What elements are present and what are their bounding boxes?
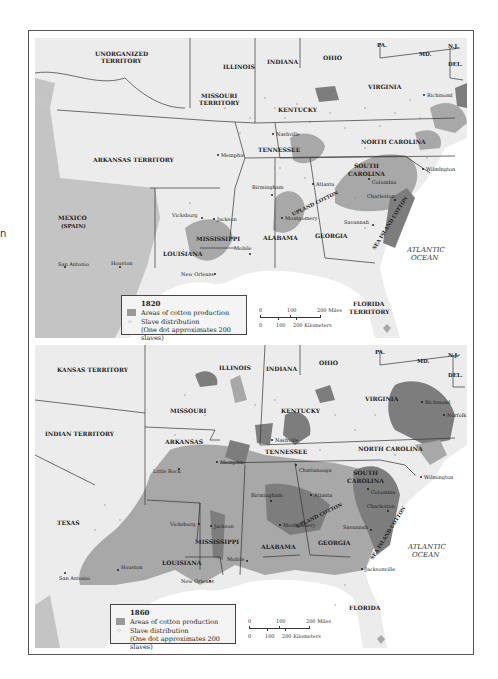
legend-cotton-label: Areas of cotton production [141,309,229,317]
city-label: New Orleans [181,271,214,277]
scale-bar-1820: 0 100 200 Miles 0 100 200 Kilometers [259,305,349,333]
city-label: Columbia [371,489,395,495]
legend-1820: 1820 Areas of cotton production ⁘ Slave … [121,295,247,335]
city-label: Nashville [275,437,299,443]
scale-tick-label: 200 Kilometers [293,322,332,328]
region-label: MISSISSIPPI [196,235,240,242]
city-label: San Antonio [59,575,90,581]
city-label: San Antonio [58,261,89,267]
region-label: MD. [419,51,432,57]
legend-slave-label: Slave distribution [141,318,241,326]
city-label: Jacksonville [364,566,395,573]
region-label: MEXICO [58,214,87,221]
region-label: VIRGINIA [364,395,399,402]
city-label: Columbia [372,179,396,185]
city-label: Vicksburg [169,521,196,528]
legend-slave-note: (One dot approximates 200 slaves) [130,635,230,651]
region-label: ALABAMA [260,543,296,550]
map-1820: UNORGANIZED TERRITORY MISSOURI TERRITORY… [35,38,467,338]
region-label: ARKANSAS [164,438,203,445]
region-label: TERRITORY [199,99,240,106]
city-label: Jackson [213,523,234,530]
region-label: NORTH CAROLINA [358,445,423,452]
region-label: KENTUCKY [281,407,321,414]
dot-pattern-icon: ⁘ [127,318,136,327]
scale-tick-label: 0 [248,633,251,639]
city-label: Birmingham [251,492,283,499]
region-label: TENNESSEE [258,146,301,153]
cotton-swatch-icon [116,618,125,625]
region-label: GEORGIA [315,232,348,239]
city-label: Norfolk [447,412,467,418]
ocean-label: ATLANTIC [407,543,447,551]
map-1820-canvas: UNORGANIZED TERRITORY MISSOURI TERRITORY… [35,38,467,338]
region-label: KENTUCKY [278,106,318,113]
map-1860: KANSAS TERRITORY ILLINOIS INDIANA OHIO P… [35,345,467,648]
region-label: MISSOURI [201,92,237,99]
legend-cotton-label: Areas of cotton production [130,618,218,626]
region-label: (SPAIN) [61,223,86,229]
legend-slave-note: (One dot approximates 200 slaves) [141,326,241,342]
region-label: VIRGINIA [367,83,402,90]
region-label: TERRITORY [101,57,142,64]
region-label: UNORGANIZED [95,50,148,57]
dot-pattern-icon: ⁘ [116,627,125,636]
city-label: Houston [111,260,133,266]
scale-tick-label: 200 Kilometers [282,633,321,639]
region-label: FLORIDA [353,300,385,307]
region-label: MISSISSIPPI [195,538,239,545]
city-label: Nashville [276,131,300,137]
city-label: New Orleans [181,578,214,584]
region-label: SOUTH [354,162,379,169]
legend-year: 1860 [130,608,230,617]
legend-year: 1820 [141,299,241,308]
scale-tick-label: 100 [276,322,286,328]
region-label: OHIO [323,54,342,61]
scale-bar-1860: 0 100 200 Miles 0 100 200 Kilometers [248,616,338,644]
region-label: PA. [377,42,387,48]
region-label: ILLINOIS [219,364,251,371]
region-label: INDIANA [267,58,298,65]
city-label: Birmingham [252,184,284,191]
region-label: LOUISIANA [162,559,202,566]
region-label: GEORGIA [318,539,351,546]
scale-tick-label: 0 [248,618,251,624]
region-label: DEL. [448,372,463,378]
city-label: Mobile [227,556,245,562]
region-label: ARKANSAS TERRITORY [92,156,174,163]
region-label: FLORIDA [349,604,381,611]
city-label: Mobile [234,245,252,251]
legend-slave-row: ⁘ Slave distribution (One dot approximat… [127,318,241,342]
legend-slave-label: Slave distribution [130,627,230,635]
scale-tick-label: 0 [259,307,262,313]
region-label: OHIO [319,359,338,366]
region-label: TENNESSEE [265,448,308,455]
city-label: Chattanooga [299,467,331,474]
legend-cotton-row: Areas of cotton production [127,309,241,317]
region-label: N.J. [448,352,459,359]
scale-tick-label: 100 [276,618,286,624]
city-label: Wilmington [426,166,456,173]
city-label: Atlanta [313,492,332,498]
region-label: ILLINOIS [223,63,255,70]
ocean-label: OCEAN [411,254,439,262]
city-label: Memphis [221,152,245,159]
city-label: Vicksburg [171,212,198,219]
region-label: PA. [375,349,385,355]
city-label: Charleston [367,193,396,199]
region-label: DEL. [448,61,463,67]
region-label: MD. [417,358,430,364]
city-label: Richmond [427,92,453,98]
legend-cotton-row: Areas of cotton production [116,618,230,626]
city-label: Jackson [216,216,237,223]
region-label: ALABAMA [262,234,298,241]
region-label: N.J. [448,43,459,50]
region-label: NORTH CAROLINA [361,138,426,145]
stray-caption-fragment: n [0,228,6,239]
scale-tick-label: 100 [287,307,297,313]
city-label: Richmond [425,399,451,405]
map-1860-canvas: KANSAS TERRITORY ILLINOIS INDIANA OHIO P… [35,345,467,648]
region-label: MISSOURI [170,407,206,414]
region-label: TEXAS [57,519,79,526]
scale-tick-label: 100 [265,633,275,639]
